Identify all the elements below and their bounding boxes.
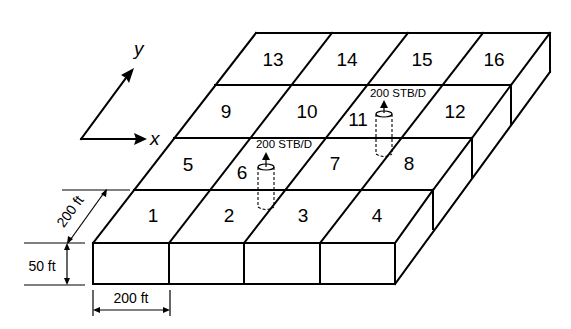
dimension-cell-x: 200 ft	[93, 290, 170, 316]
cell-label-7: 7	[330, 153, 341, 174]
top-face-grid	[93, 33, 550, 284]
cell-label-14: 14	[336, 49, 358, 70]
cell-label-10: 10	[296, 101, 317, 122]
cell-label-6: 6	[237, 162, 248, 183]
cell-label-12: 12	[444, 101, 465, 122]
cell-label-5: 5	[183, 154, 194, 175]
cell-label-13: 13	[262, 49, 283, 70]
well-rate-label-11: 200 STB/D	[370, 87, 426, 99]
y-axis-label: y	[132, 38, 145, 59]
cell-x-length-label: 200 ft	[113, 290, 148, 306]
cell-label-15: 15	[411, 49, 432, 70]
cell-label-9: 9	[221, 101, 232, 122]
axis-indicator: x y	[81, 38, 161, 149]
dimension-thickness: 50 ft	[24, 243, 85, 285]
dimension-cell-y: 200 ft	[53, 189, 130, 244]
cell-label-8: 8	[404, 153, 415, 174]
cell-label-3: 3	[298, 205, 309, 226]
well-cell-6: 200 STB/D	[256, 138, 312, 210]
production-arrow-icon	[262, 152, 270, 160]
reservoir-grid-diagram: x y 1 2	[0, 0, 571, 329]
y-axis-arrow-line	[81, 78, 126, 139]
cell-label-1: 1	[148, 205, 159, 226]
thickness-label: 50 ft	[28, 258, 55, 274]
cell-label-2: 2	[224, 205, 235, 226]
production-arrow-icon	[380, 100, 388, 108]
cell-label-11: 11	[348, 109, 368, 130]
well-rate-label-6: 200 STB/D	[256, 138, 312, 150]
front-face	[93, 243, 395, 284]
well-cell-11: 200 STB/D	[370, 87, 426, 157]
x-axis-label: x	[149, 128, 161, 149]
cell-label-4: 4	[372, 205, 383, 226]
cell-label-16: 16	[483, 49, 504, 70]
